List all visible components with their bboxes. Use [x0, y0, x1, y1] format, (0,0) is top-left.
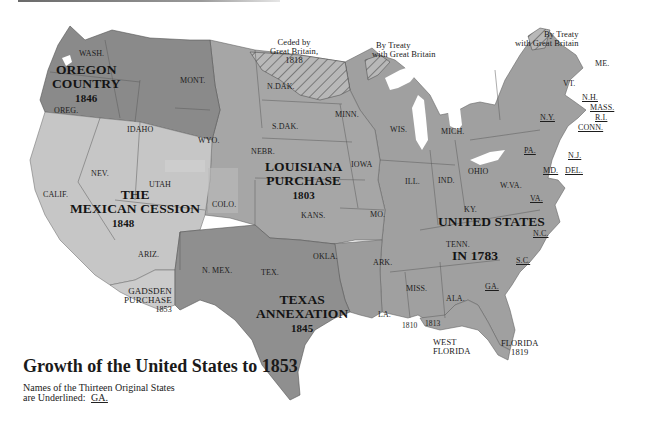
state-mass: MASS.	[590, 103, 614, 112]
state-okla: OKLA.	[313, 252, 338, 261]
label-oregon-country: OREGON COUNTRY 1846	[52, 63, 120, 105]
label-louisiana-purchase: LOUISIANA PURCHASE 1803	[265, 160, 342, 202]
state-minn: MINN.	[335, 110, 359, 119]
state-nj: N.J.	[568, 151, 581, 160]
label-west-florida: WEST FLORIDA	[433, 338, 471, 356]
state-ny: N.Y.	[540, 113, 555, 122]
state-ala: ALA.	[446, 294, 465, 303]
state-sdak: S.DAK.	[272, 122, 298, 131]
state-nev: NEV.	[91, 169, 109, 178]
state-va: VA.	[530, 194, 543, 203]
label-west-florida-1813: 1813	[425, 319, 440, 328]
state-nc: N.C.	[533, 229, 549, 238]
state-la: LA.	[378, 310, 391, 319]
state-mich: MICH.	[441, 127, 464, 136]
state-mo: MO.	[370, 210, 385, 219]
state-ind: IND.	[438, 176, 455, 185]
state-wash: WASH.	[79, 49, 104, 58]
label-mexican-cession: THE MEXICAN CESSION 1848	[70, 188, 200, 230]
state-mont: MONT.	[180, 76, 205, 85]
state-pa: PA.	[524, 146, 536, 155]
annotation-ceded-1818: Ceded by Great Britain, 1818	[270, 38, 318, 65]
legend-example-underlined: GA.	[91, 392, 108, 403]
state-md: MD.	[543, 166, 558, 175]
state-calif: CALIF.	[43, 190, 68, 199]
state-ohio: OHIO	[468, 167, 488, 176]
state-wva: W.VA.	[500, 181, 522, 190]
label-texas-annexation: TEXAS ANNEXATION 1845	[256, 293, 348, 335]
state-nmex: N. MEX.	[202, 266, 232, 275]
annotation-treaty-ne: By Treaty with Great Britain	[515, 30, 579, 48]
state-ga: GA.	[485, 282, 499, 291]
state-wyo: WYO.	[198, 136, 220, 145]
legend-line-2: are Underlined: GA.	[23, 393, 175, 403]
state-ri: R.I.	[595, 113, 607, 122]
state-nh: N.H.	[582, 93, 598, 102]
state-miss: MISS.	[406, 284, 427, 293]
label-florida: FLORIDA 1819	[501, 339, 539, 357]
state-idaho: IDAHO	[127, 125, 153, 134]
state-wis: WIS.	[390, 125, 407, 134]
label-west-florida-1810: 1810	[402, 321, 417, 330]
state-ndak: N.DAK.	[267, 82, 295, 91]
state-kans: KANS.	[301, 211, 325, 220]
state-ky: KY.	[464, 205, 477, 214]
annotation-treaty-mid: By Treaty with Great Britain	[372, 41, 436, 59]
label-gadsden-purchase: GADSDEN PURCHASE 1853	[116, 287, 172, 314]
map-legend: Names of the Thirteen Original States ar…	[23, 383, 175, 403]
state-sc: S.C.	[516, 256, 530, 265]
state-ark: ARK.	[373, 258, 392, 267]
state-nebr: NEBR.	[251, 147, 275, 156]
map-title: Growth of the United States to 1853	[23, 356, 298, 377]
state-conn: CONN.	[578, 123, 603, 132]
state-oreg: OREG.	[54, 106, 78, 115]
state-tex: TEX.	[261, 268, 279, 277]
state-iowa: IOWA	[351, 160, 372, 169]
state-me: ME.	[595, 59, 609, 68]
state-del: DEL.	[565, 166, 583, 175]
state-colo: COLO.	[212, 200, 236, 209]
state-vt: VT.	[563, 79, 575, 88]
state-ariz: ARIZ.	[138, 250, 159, 259]
state-tenn: TENN.	[446, 240, 470, 249]
state-ill: ILL.	[405, 177, 420, 186]
state-utah: UTAH	[149, 180, 171, 189]
